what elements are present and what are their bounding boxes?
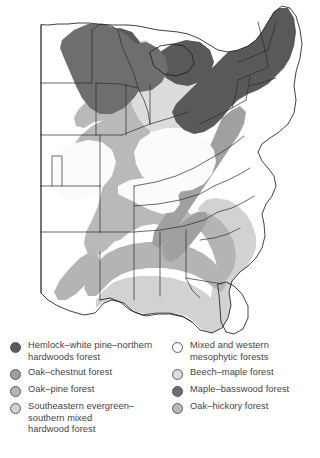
region-southeastern-evergreen-florida bbox=[220, 282, 248, 333]
eastern-us-forest-regions-map bbox=[0, 0, 320, 336]
legend-label-southeastern-evergreen-southern-mixed-hardwood-forest: Southeastern evergreen– southern mixed h… bbox=[28, 401, 134, 436]
map-legend: Hemlock–white pine–northern hardwoods fo… bbox=[0, 340, 320, 458]
legend-swatch-mixed-and-western-mesophytic-forests bbox=[172, 342, 183, 353]
legend-item-hemlock-white-pine-northern-hardwoods-forest[interactable]: Hemlock–white pine–northern hardwoods fo… bbox=[10, 340, 170, 363]
legend-swatch-southeastern-evergreen-southern-mixed-hardwood-forest bbox=[10, 403, 21, 414]
legend-item-beech-maple-forest[interactable]: Beech–maple forest bbox=[172, 367, 318, 380]
legend-item-oak-pine-forest[interactable]: Oak–pine forest bbox=[10, 384, 170, 397]
legend-item-maple-basswood-forest[interactable]: Maple–basswood forest bbox=[172, 384, 318, 397]
legend-column-right: Mixed and western mesophytic forests Bee… bbox=[172, 340, 318, 418]
legend-label-maple-basswood-forest: Maple–basswood forest bbox=[190, 384, 289, 396]
legend-swatch-hemlock-white-pine-northern-hardwoods-forest bbox=[10, 342, 21, 353]
legend-swatch-maple-basswood-forest bbox=[172, 386, 183, 397]
legend-item-oak-hickory-forest[interactable]: Oak–hickory forest bbox=[172, 401, 318, 414]
legend-swatch-oak-pine-forest bbox=[10, 386, 21, 397]
legend-swatch-beech-maple-forest bbox=[172, 369, 183, 380]
legend-label-oak-hickory-forest: Oak–hickory forest bbox=[190, 401, 268, 413]
legend-label-beech-maple-forest: Beech–maple forest bbox=[190, 367, 274, 379]
legend-swatch-oak-chestnut-forest bbox=[10, 369, 21, 380]
legend-label-oak-chestnut-forest: Oak–chestnut forest bbox=[28, 367, 112, 379]
legend-swatch-oak-hickory-forest bbox=[172, 403, 183, 414]
legend-item-southeastern-evergreen-southern-mixed-hardwood-forest[interactable]: Southeastern evergreen– southern mixed h… bbox=[10, 401, 170, 436]
legend-label-hemlock-white-pine-northern-hardwoods-forest: Hemlock–white pine–northern hardwoods fo… bbox=[28, 340, 152, 363]
legend-item-mixed-and-western-mesophytic-forests[interactable]: Mixed and western mesophytic forests bbox=[172, 340, 318, 363]
legend-label-mixed-and-western-mesophytic-forests: Mixed and western mesophytic forests bbox=[190, 340, 269, 363]
legend-label-oak-pine-forest: Oak–pine forest bbox=[28, 384, 94, 396]
map-area bbox=[0, 0, 320, 336]
legend-item-oak-chestnut-forest[interactable]: Oak–chestnut forest bbox=[10, 367, 170, 380]
legend-column-left: Hemlock–white pine–northern hardwoods fo… bbox=[10, 340, 170, 440]
forest-regions-figure: Hemlock–white pine–northern hardwoods fo… bbox=[0, 0, 320, 458]
